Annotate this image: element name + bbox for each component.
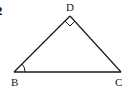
angle-arc-b <box>22 64 25 72</box>
problem-number: 2 <box>0 3 3 18</box>
triangle-diagram: 2 D B C <box>0 0 125 98</box>
side-bd <box>14 16 70 72</box>
vertex-label-d: D <box>66 1 74 13</box>
vertex-label-c: C <box>115 76 122 88</box>
right-angle-marker-d <box>65 21 75 26</box>
side-dc <box>70 16 121 72</box>
vertex-label-b: B <box>11 76 18 88</box>
